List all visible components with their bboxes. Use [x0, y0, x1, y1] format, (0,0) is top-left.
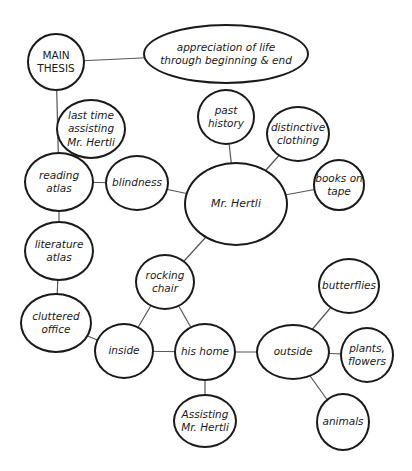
node-distinctive-clothing: distinctive clothing	[266, 106, 330, 162]
node-literature-atlas: literature atlas	[24, 221, 94, 281]
node-inside: inside	[94, 323, 154, 379]
node-mr-hertli: Mr. Hertli	[184, 162, 288, 246]
node-his-home: his home	[174, 323, 236, 381]
node-main-thesis: MAIN THESIS	[27, 33, 85, 91]
concept-map-canvas: MAIN THESISappreciation of life through …	[0, 0, 412, 471]
node-last-time: last time assisting Mr. Hertli	[56, 99, 126, 159]
node-assisting: Assisting Mr. Hertli	[173, 394, 237, 448]
node-books-on-tape: books on tape	[313, 159, 365, 211]
node-outside: outside	[256, 324, 330, 380]
node-rocking-chair: rocking chair	[135, 254, 195, 310]
node-reading-atlas: reading atlas	[24, 152, 94, 212]
node-butterflies: butterflies	[318, 258, 380, 314]
node-past-history: past history	[197, 89, 255, 145]
node-appreciation: appreciation of life through beginning &…	[143, 24, 309, 84]
node-cluttered-office: cluttered office	[20, 293, 92, 353]
node-plants-flowers: plants, flowers	[340, 327, 394, 383]
node-animals: animals	[316, 393, 370, 451]
node-blindness: blindness	[105, 155, 169, 211]
